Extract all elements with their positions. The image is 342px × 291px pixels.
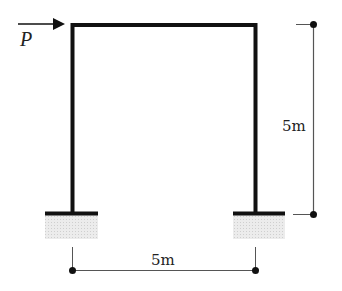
span-label: 5m bbox=[151, 251, 175, 269]
dimension-dot-icon bbox=[69, 267, 76, 274]
frame-diagram: P 5m 5m bbox=[0, 0, 342, 291]
frame bbox=[71, 23, 257, 213]
dimension-dot-icon bbox=[310, 21, 317, 28]
right-fixed-support bbox=[233, 214, 285, 240]
arrowhead-icon bbox=[53, 18, 65, 30]
dimension-dot-icon bbox=[310, 211, 317, 218]
height-label: 5m bbox=[282, 117, 306, 135]
ground-hatch bbox=[233, 215, 285, 239]
dimension-dot-icon bbox=[252, 267, 259, 274]
load-label: P bbox=[19, 28, 32, 50]
ground-hatch bbox=[45, 215, 98, 239]
left-fixed-support bbox=[45, 214, 98, 240]
